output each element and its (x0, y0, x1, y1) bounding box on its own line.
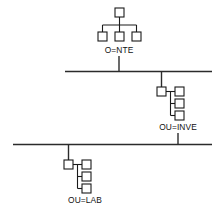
inve-group-label: OU=INVE (159, 122, 197, 132)
lab-child-node-1[interactable] (82, 160, 91, 169)
lab-group-label: OU=LAB (68, 195, 102, 205)
lab-child-node-3[interactable] (82, 184, 91, 193)
nte-group-label: O=NTE (105, 45, 134, 55)
group-inve: OU=INVE (157, 72, 197, 145)
nte-child-node-2[interactable] (115, 32, 124, 41)
inve-child-node-2[interactable] (175, 99, 184, 108)
nte-child-node-3[interactable] (132, 32, 141, 41)
group-nte: O=NTE (98, 8, 141, 72)
nte-child-node-1[interactable] (98, 32, 107, 41)
lab-child-node-2[interactable] (82, 172, 91, 181)
inve-child-node-3[interactable] (175, 111, 184, 120)
network-hierarchy-diagram: O=NTE OU=INVE (0, 0, 220, 216)
diagram-canvas: O=NTE OU=INVE (0, 0, 220, 216)
inve-parent-node[interactable] (157, 87, 166, 96)
nte-parent-node[interactable] (115, 8, 124, 17)
lab-parent-node[interactable] (64, 160, 73, 169)
inve-child-node-1[interactable] (175, 87, 184, 96)
group-lab: OU=LAB (64, 145, 102, 206)
